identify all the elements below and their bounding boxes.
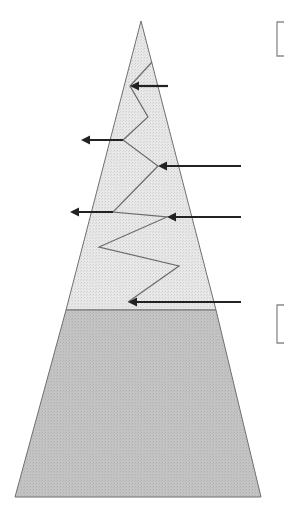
bracket-lower xyxy=(277,305,284,343)
bracket-upper xyxy=(277,22,284,56)
brackets-group xyxy=(277,22,284,343)
lower-section xyxy=(15,310,261,497)
pyramid-diagram xyxy=(0,0,284,514)
